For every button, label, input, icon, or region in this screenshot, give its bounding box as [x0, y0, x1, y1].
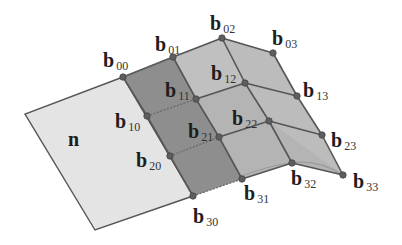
label-b33: b33 [353, 170, 378, 194]
control-point-b22 [266, 118, 272, 124]
control-point-b23 [319, 132, 325, 138]
bezier-patch-diagram: nb00b01b02b03b10b11b12b13b20b21b22b23b30… [0, 0, 402, 245]
label-b31: b31 [244, 182, 269, 206]
control-point-b03 [270, 50, 276, 56]
control-point-b20 [167, 153, 173, 159]
label-b00: b00 [103, 49, 128, 73]
control-point-b12 [242, 80, 248, 86]
label-b23: b23 [331, 129, 356, 153]
control-point-b33 [340, 172, 346, 178]
label-b32: b32 [291, 167, 316, 191]
control-point-b11 [193, 96, 199, 102]
control-point-b21 [216, 134, 222, 140]
label-b13: b13 [303, 79, 328, 103]
control-point-b10 [144, 113, 150, 119]
control-point-b30 [190, 193, 196, 199]
label-b01: b01 [155, 33, 180, 57]
label-b03: b03 [272, 27, 297, 51]
control-point-b00 [120, 74, 126, 80]
control-point-b32 [289, 160, 295, 166]
plane-n-label: n [68, 128, 79, 150]
label-b02: b02 [210, 12, 235, 36]
control-point-b13 [294, 93, 300, 99]
label-b30: b30 [193, 205, 218, 229]
